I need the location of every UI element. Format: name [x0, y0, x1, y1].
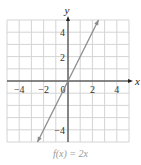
svg-text:2: 2 — [60, 52, 65, 63]
svg-text:4: 4 — [60, 27, 65, 38]
y-axis-label: y — [64, 4, 70, 16]
svg-text:4: 4 — [114, 84, 119, 95]
axes — [7, 16, 133, 142]
svg-text:2: 2 — [90, 84, 95, 95]
function-graph: −4−2024−424 x y — [0, 0, 141, 165]
svg-text:−4: −4 — [54, 125, 65, 136]
function-caption: f(x) = 2x — [0, 148, 141, 159]
svg-text:−2: −2 — [38, 84, 49, 95]
x-axis-label: x — [134, 75, 140, 87]
svg-text:−4: −4 — [14, 84, 25, 95]
